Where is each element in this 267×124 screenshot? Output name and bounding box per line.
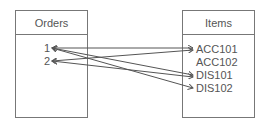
relationship-links — [0, 0, 267, 124]
link-2-dis101 — [52, 61, 193, 77]
link-1-dis102 — [52, 48, 193, 88]
